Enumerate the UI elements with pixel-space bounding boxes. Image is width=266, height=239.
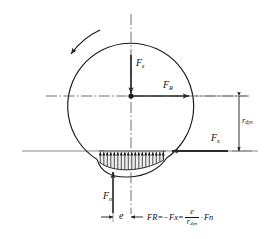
formula-mid: Fx xyxy=(169,213,178,222)
wheel-force-diagram: Fz FR Fx Fn rdyn e FR = − Fx = e rdyn · … xyxy=(0,0,266,239)
wheel-center-point xyxy=(128,93,133,98)
contact-patch-pressure-arrows xyxy=(99,151,166,170)
formula-numerator: e xyxy=(188,208,196,217)
formula-lhs: FR xyxy=(147,213,157,222)
label-e: e xyxy=(119,211,123,221)
formula-rhs: Fn xyxy=(204,213,213,222)
label-fz: Fz xyxy=(136,58,145,69)
rotation-direction-arrow xyxy=(71,30,100,54)
formula-denominator: rdyn xyxy=(185,217,199,228)
formula-fraction: e rdyn xyxy=(185,208,199,227)
label-rdyn: rdyn xyxy=(242,116,253,126)
rolling-resistance-formula: FR = − Fx = e rdyn · Fn xyxy=(147,208,213,227)
diagram-canvas xyxy=(0,0,266,239)
label-fx: Fx xyxy=(211,133,220,144)
formula-equals-2: = xyxy=(178,213,184,222)
label-fr: FR xyxy=(163,80,173,91)
label-fn: Fn xyxy=(103,191,112,202)
